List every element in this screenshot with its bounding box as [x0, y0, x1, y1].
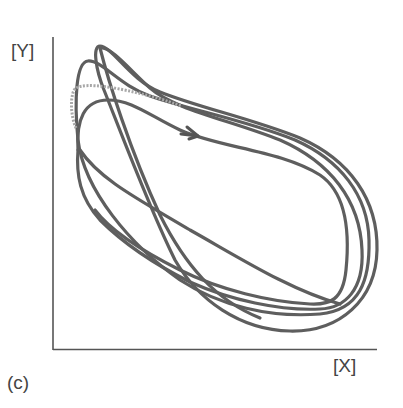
phase-portrait-figure: [Y] [X] (c)	[0, 0, 403, 408]
panel-label: (c)	[7, 373, 29, 392]
trajectory-diagonal-strand	[80, 150, 340, 304]
x-axis-label: [X]	[333, 356, 356, 375]
y-axis-label: [Y]	[11, 41, 34, 60]
trajectory-loop-4	[78, 100, 348, 304]
phase-portrait-plot	[0, 0, 403, 408]
trajectory-loop-3	[78, 48, 363, 309]
